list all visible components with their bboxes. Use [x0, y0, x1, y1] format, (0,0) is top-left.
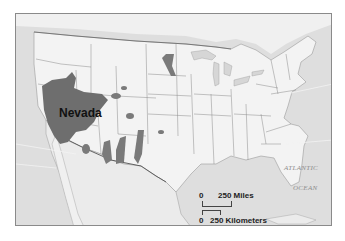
scale-bar-miles — [202, 201, 232, 207]
us-map-graphic — [16, 14, 332, 226]
ocean-label-ocean: OCEAN — [293, 184, 317, 192]
scale-km-zero: 0 — [199, 216, 203, 225]
ocean-label-atlantic: ATLANTIC — [284, 164, 318, 172]
scale-miles-label: 250 Miles — [218, 191, 254, 200]
scale-bar-km — [202, 210, 221, 215]
nevada-label: Nevada — [59, 106, 102, 120]
map-frame: Nevada ATLANTIC OCEAN 0 250 Miles 0 250 … — [15, 13, 332, 226]
scale-miles-zero: 0 — [199, 191, 203, 200]
scale-km-label: 250 Kilometers — [210, 216, 267, 225]
